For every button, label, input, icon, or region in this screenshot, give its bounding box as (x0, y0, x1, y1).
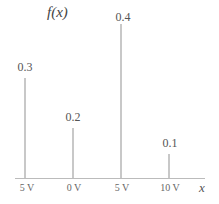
tick-label-0: 5 V (20, 182, 35, 193)
bar-2 (120, 24, 122, 178)
x-axis-label: x (199, 180, 205, 196)
value-label-3: 0.1 (163, 136, 178, 151)
pmf-chart: f(x) 0.3 0.2 0.4 0.1 5 V 0 V 5 V 10 V x (0, 0, 219, 204)
x-axis (15, 178, 205, 179)
bar-1 (72, 128, 74, 178)
tick-label-1: 0 V (67, 182, 82, 193)
chart-title: f(x) (47, 4, 68, 21)
tick-label-3: 10 V (160, 182, 180, 193)
bar-3 (168, 154, 170, 178)
value-label-0: 0.3 (18, 60, 33, 75)
value-label-1: 0.2 (66, 110, 81, 125)
value-label-2: 0.4 (116, 10, 131, 25)
bar-0 (24, 78, 26, 178)
tick-label-2: 5 V (115, 182, 130, 193)
